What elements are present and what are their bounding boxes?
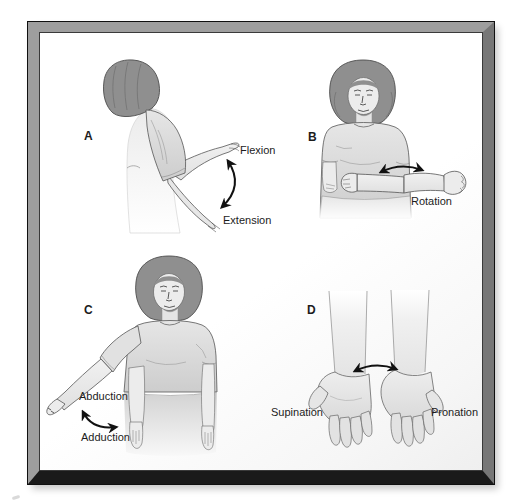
panel-c-letter: C	[84, 304, 93, 316]
panel-c-illustration	[47, 256, 217, 456]
extension-label: Extension	[223, 215, 271, 226]
abduction-label: Abduction	[79, 391, 128, 402]
panel-d-letter: D	[307, 304, 316, 316]
adduction-label: Adduction	[81, 432, 130, 443]
rotation-label: Rotation	[411, 196, 452, 207]
supination-label: Supination	[271, 407, 323, 418]
panel-a-illustration	[103, 60, 240, 233]
pronation-label: Pronation	[431, 407, 478, 418]
figure-canvas: A Flexion Extension B Rotation C Abducti…	[0, 0, 521, 503]
woman-a-hair	[103, 60, 159, 117]
flexion-label: Flexion	[240, 145, 275, 156]
panel-a-letter: A	[84, 130, 93, 142]
panel-d-illustration	[309, 290, 443, 447]
abduction-adduction-arrow	[83, 412, 116, 427]
illustration-layer	[0, 0, 521, 503]
panel-b-letter: B	[308, 131, 317, 143]
flexion-extension-arrow	[222, 161, 235, 207]
